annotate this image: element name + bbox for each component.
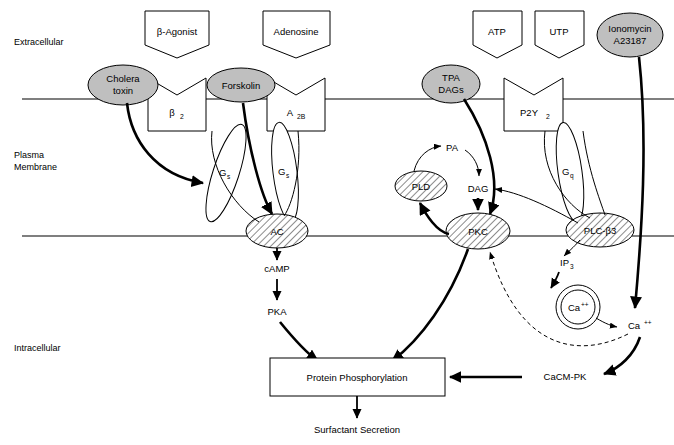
arrow-pa-to-dag [465, 150, 479, 176]
agent-label-2: DAGs [438, 84, 464, 95]
ligand-adenosine: Adenosine [263, 11, 330, 58]
receptor-label: A [287, 107, 294, 118]
ligand-label: ATP [488, 26, 506, 37]
messenger-cacm-pk: CaCM-PK [544, 371, 587, 382]
arrow-pkc-to-phosphorylation [392, 249, 468, 361]
agent-label-1: TPA [442, 72, 460, 83]
gprotein-label: G [278, 166, 285, 177]
calcium-store-label: Ca [568, 302, 581, 313]
effector-label: PLC-β3 [584, 225, 616, 236]
ligand-label: UTP [550, 26, 569, 37]
agent-label-2: toxin [113, 85, 133, 96]
receptor-sublabel: 2 [180, 113, 184, 120]
output-protein-phosphorylation: Protein Phosphorylation [270, 358, 445, 396]
arrow-ip3-to-store [551, 272, 559, 288]
arrow-tpa-to-pkc [464, 99, 494, 214]
messenger-camp: cAMP [264, 263, 289, 274]
agent-label-2: A23187 [614, 35, 647, 46]
ligand-utp: UTP [535, 11, 584, 58]
effector-pld: PLD [395, 171, 447, 201]
agent-tpa-dags: TPA DAGs [422, 65, 480, 103]
receptor-label: β [169, 107, 175, 118]
receptor-sublabel: 2B [297, 113, 306, 120]
arrow-calcium-to-cacmpk [604, 337, 640, 374]
calcium-store: Ca ++ [556, 285, 600, 329]
ligand-beta-agonist: β-Agonist [145, 11, 209, 58]
output-surfactant-secretion: Surfactant Secretion [314, 424, 400, 435]
pathway-diagram: Extracellular Plasma Membrane Intracellu… [0, 0, 674, 445]
diagram-canvas: Extracellular Plasma Membrane Intracellu… [0, 0, 674, 445]
messenger-ip3: IP [560, 257, 569, 268]
agent-label-1: Ionomycin [608, 23, 651, 34]
agent-label-1: Cholera [106, 73, 140, 84]
messenger-pa: PA [446, 142, 459, 153]
gprotein-label: G [562, 166, 569, 177]
effector-plc-beta3: PLC-β3 [566, 213, 634, 247]
arrow-pld-to-pa [414, 146, 441, 171]
zone-label-intracellular: Intracellular [14, 343, 61, 353]
ligand-label: β-Agonist [157, 26, 198, 37]
receptor-p2y2: P2Y 2 [504, 78, 563, 131]
messenger-pka: PKA [267, 306, 287, 317]
effector-label: AC [270, 226, 283, 237]
output-label: Protein Phosphorylation [307, 372, 408, 383]
agent-forskolin: Forskolin [207, 68, 275, 102]
arrow-pka-to-phosphorylation [280, 322, 318, 361]
agent-label-1: Forskolin [222, 80, 261, 91]
zone-label-plasma-membrane-2: Membrane [14, 162, 57, 172]
calcium-cytosolic-label: Ca [628, 320, 641, 331]
arrow-plc-to-ip3 [564, 240, 580, 256]
arrow-pkc-to-pld [420, 203, 449, 234]
arrow-ionomycin-to-calcium [635, 57, 644, 308]
ligand-label: Adenosine [274, 26, 319, 37]
gprotein-gs-beta2: G s [198, 120, 254, 225]
calcium-store-sup: ++ [581, 301, 589, 308]
messenger-ip3-sub: 3 [570, 263, 574, 270]
gprotein-sublabel: q [570, 172, 574, 180]
messenger-dag: DAG [468, 183, 489, 194]
ligand-atp: ATP [473, 11, 522, 58]
effector-pkc: PKC [446, 213, 510, 249]
arrow-store-to-cytosol [596, 318, 617, 327]
receptor-a2b: A 2B [267, 78, 325, 131]
agent-ionomycin: Ionomycin A23187 [597, 13, 663, 57]
receptor-sublabel: 2 [546, 113, 550, 120]
agent-cholera-toxin: Cholera toxin [88, 65, 158, 105]
line-gq-tail-right [583, 131, 605, 215]
receptor-label: P2Y [520, 107, 539, 118]
zone-label-plasma-membrane-1: Plasma [14, 150, 44, 160]
effector-label: PKC [468, 226, 488, 237]
effector-label: PLD [412, 181, 431, 192]
calcium-cytosolic-sup: ++ [644, 319, 652, 326]
zone-label-extracellular: Extracellular [14, 37, 64, 47]
gprotein-gq-p2y2: G q [551, 121, 589, 223]
